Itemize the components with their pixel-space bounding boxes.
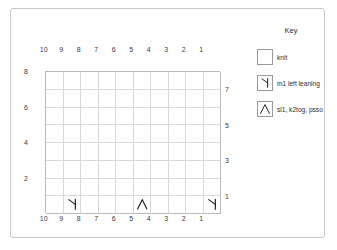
chart-cell-r4-c8[interactable] [81,143,99,161]
chart-cell-r1-c7[interactable] [99,196,117,214]
chart-cell-r7-c3[interactable] [169,90,187,108]
chart-cell-r5-c8[interactable] [81,125,99,143]
chart-cell-r3-c9[interactable] [64,161,82,179]
chart-cell-r5-c9[interactable] [64,125,82,143]
chart-cell-r8-c1[interactable] [204,72,222,90]
chart-cell-r2-c6[interactable] [116,179,134,197]
chart-cell-r7-c7[interactable] [99,90,117,108]
chart-cell-r7-c6[interactable] [116,90,134,108]
chart-cell-r3-c2[interactable] [186,161,204,179]
chart-grid [45,71,220,213]
row-label-4: 4 [21,138,31,147]
chart-cell-r4-c4[interactable] [151,143,169,161]
chart-cell-r8-c6[interactable] [116,72,134,90]
chart-cell-r8-c8[interactable] [81,72,99,90]
chart-cell-r6-c6[interactable] [116,108,134,126]
chart-cell-r7-c10[interactable] [46,90,64,108]
chevron-up-icon [258,102,272,116]
chart-cell-r2-c2[interactable] [186,179,204,197]
chart-cell-r4-c7[interactable] [99,143,117,161]
chart-cell-r2-c4[interactable] [151,179,169,197]
chart-cell-r1-c10[interactable] [46,196,64,214]
chart-cell-r6-c4[interactable] [151,108,169,126]
chart-cell-r6-c7[interactable] [99,108,117,126]
sl1-k2tog-psso-swatch-icon [257,101,273,117]
row-label-6: 6 [21,103,31,112]
chart-cell-r7-c5[interactable] [134,90,152,108]
m1-left-leaning-icon [258,76,272,90]
chart-cell-r6-c8[interactable] [81,108,99,126]
chart-cell-r1-c8[interactable] [81,196,99,214]
chart-cell-r7-c9[interactable] [64,90,82,108]
chart-cell-r6-c10[interactable] [46,108,64,126]
chart-cell-r7-c2[interactable] [186,90,204,108]
chart-cell-r2-c5[interactable] [134,179,152,197]
chart-cell-r8-c5[interactable] [134,72,152,90]
chart-cell-r6-c9[interactable] [64,108,82,126]
chart-cell-r4-c1[interactable] [204,143,222,161]
chart-cell-r3-c8[interactable] [81,161,99,179]
row-label-1: 1 [222,192,232,201]
chart-cell-r5-c5[interactable] [134,125,152,143]
chart-cell-r5-c2[interactable] [186,125,204,143]
chart-cell-r5-c1[interactable] [204,125,222,143]
chart-cell-r2-c1[interactable] [204,179,222,197]
chart-cell-r3-c1[interactable] [204,161,222,179]
key-title: Key [276,26,306,35]
chart-cell-r5-c3[interactable] [169,125,187,143]
row-label-2: 2 [21,174,31,183]
chart-cell-r2-c9[interactable] [64,179,82,197]
chart-cell-r5-c7[interactable] [99,125,117,143]
column-label-bottom-2: 2 [175,214,193,223]
chart-cell-r4-c5[interactable] [134,143,152,161]
column-label-4: 4 [140,45,158,54]
chart-cell-r4-c9[interactable] [64,143,82,161]
column-label-bottom-4: 4 [140,214,158,223]
chart-cell-r5-c4[interactable] [151,125,169,143]
chart-cell-r3-c5[interactable] [134,161,152,179]
chart-cell-r6-c3[interactable] [169,108,187,126]
chart-cell-r4-c6[interactable] [116,143,134,161]
chart-cell-r1-c3[interactable] [169,196,187,214]
chart-cell-r5-c10[interactable] [46,125,64,143]
chart-cell-r8-c2[interactable] [186,72,204,90]
chart-cell-r3-c10[interactable] [46,161,64,179]
chart-cell-r8-c9[interactable] [64,72,82,90]
chart-cell-r6-c1[interactable] [204,108,222,126]
chart-cell-r8-c7[interactable] [99,72,117,90]
chart-cell-r2-c10[interactable] [46,179,64,197]
chart-cell-r3-c7[interactable] [99,161,117,179]
chart-cell-r1-c1[interactable] [204,196,222,214]
chart-cell-r4-c3[interactable] [169,143,187,161]
chart-cell-r2-c8[interactable] [81,179,99,197]
chart-cell-r7-c4[interactable] [151,90,169,108]
chart-cell-r1-c4[interactable] [151,196,169,214]
column-label-5: 5 [123,45,141,54]
chart-cell-r1-c9[interactable] [64,196,82,214]
column-label-10: 10 [35,45,53,54]
row-label-5: 5 [222,121,232,130]
chart-cell-r3-c4[interactable] [151,161,169,179]
chart-cell-r1-c5[interactable] [134,196,152,214]
chart-cell-r8-c3[interactable] [169,72,187,90]
key-item-m1-left-leaning: m1 left leaning [257,75,320,91]
chart-cell-r2-c3[interactable] [169,179,187,197]
chart-cell-r5-c6[interactable] [116,125,134,143]
chart-cell-r4-c2[interactable] [186,143,204,161]
chart-cell-r7-c1[interactable] [204,90,222,108]
chart-cell-r2-c7[interactable] [99,179,117,197]
chart-cell-r3-c6[interactable] [116,161,134,179]
chart-cell-r6-c5[interactable] [134,108,152,126]
column-label-6: 6 [105,45,123,54]
chart-cell-r6-c2[interactable] [186,108,204,126]
chart-cell-r8-c4[interactable] [151,72,169,90]
chart-cell-r1-c6[interactable] [116,196,134,214]
chart-cell-r4-c10[interactable] [46,143,64,161]
chart-cell-r7-c8[interactable] [81,90,99,108]
chart-cell-r1-c2[interactable] [186,196,204,214]
key-item-label: sl1, k2tog, psso [277,105,323,114]
row-label-7: 7 [222,85,232,94]
chart-cell-r8-c10[interactable] [46,72,64,90]
chart-cell-r3-c3[interactable] [169,161,187,179]
column-label-bottom-8: 8 [70,214,88,223]
